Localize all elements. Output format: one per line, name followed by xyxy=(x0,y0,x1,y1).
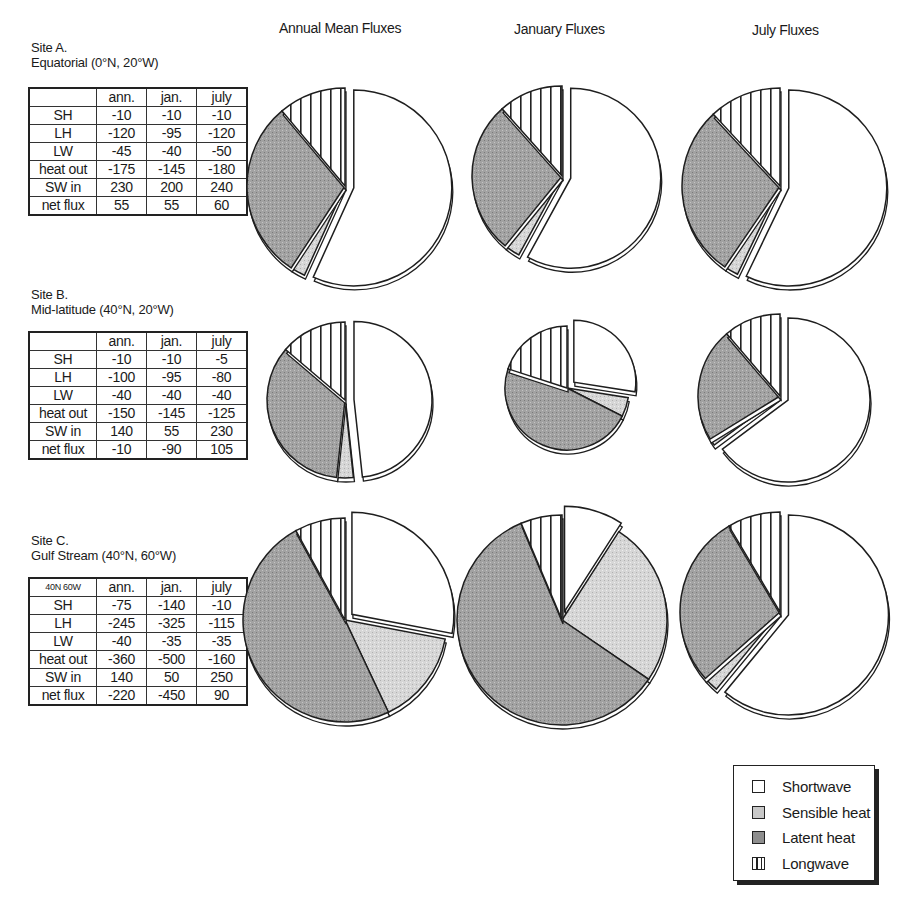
pie-chart xyxy=(267,322,433,482)
shortwave-slice xyxy=(354,322,432,478)
longwave-swatch-icon xyxy=(752,857,765,870)
latent-heat-swatch-icon xyxy=(752,831,765,844)
shortwave-slice xyxy=(352,512,454,633)
shortwave-slice xyxy=(574,320,636,392)
legend-label: Longwave xyxy=(782,855,849,872)
shortwave-swatch-icon xyxy=(752,780,765,793)
pie-chart xyxy=(505,320,637,454)
legend-label: Shortwave xyxy=(782,778,851,795)
legend-label: Latent heat xyxy=(782,829,855,846)
legend-label: Sensible heat xyxy=(782,804,870,821)
pie-chart xyxy=(243,512,455,726)
pie-chart xyxy=(682,88,888,290)
legend: Shortwave Sensible heat Latent heat Long… xyxy=(733,765,875,881)
pie-chart xyxy=(247,88,453,290)
pie-chart xyxy=(457,506,668,729)
pie-chart xyxy=(698,314,871,486)
pie-chart xyxy=(680,512,889,719)
sensible-heat-swatch-icon xyxy=(752,806,765,819)
pie-chart xyxy=(472,86,662,272)
